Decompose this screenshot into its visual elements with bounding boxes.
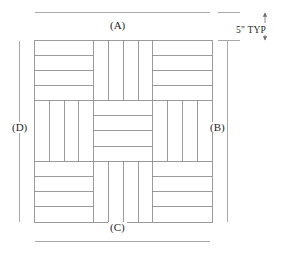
block-r1c0-vertical (49, 100, 78, 161)
parquet-pattern (34, 40, 212, 222)
dimension-label-b: (B) (208, 122, 227, 133)
drawing-svg (0, 0, 283, 255)
block-r1c2-vertical (167, 100, 197, 161)
block-r0c2-horizontal (152, 55, 212, 85)
block-r1c1-horizontal (93, 115, 152, 146)
block-r2c2-horizontal (152, 176, 212, 206)
block-r2c1-vertical (108, 161, 138, 222)
parquet-drawing-canvas: (A) (B) (C) (D) 5" TYP (0, 0, 283, 255)
block-r0c0-horizontal (34, 55, 93, 85)
block-r2c0-horizontal (34, 176, 93, 206)
typical-dimension-label: 5" TYP (236, 26, 266, 36)
dimension-label-a: (A) (108, 20, 127, 31)
dimension-label-d: (D) (10, 122, 29, 133)
block-r0c1-vertical (108, 40, 138, 100)
dimension-label-c: (C) (108, 222, 127, 233)
